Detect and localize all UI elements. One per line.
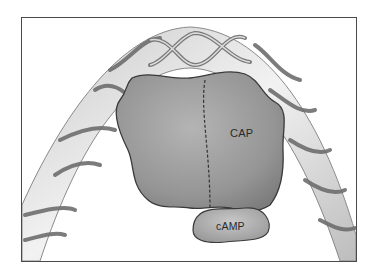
cap-protein xyxy=(116,72,284,211)
camp-label: cAMP xyxy=(216,220,245,232)
cap-label: CAP xyxy=(230,127,253,139)
cap-dna-illustration xyxy=(0,0,376,280)
